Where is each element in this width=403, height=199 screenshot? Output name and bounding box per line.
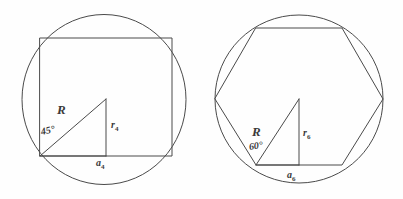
label-apothem-square: r4 — [111, 120, 118, 133]
radius-line-hexagon — [256, 99, 299, 165]
label-radius-square: R — [57, 103, 66, 116]
figure-hexagon-in-circle — [215, 15, 383, 183]
label-side-hexagon: a6 — [287, 170, 296, 183]
label-apothem-square-subscript: 4 — [115, 125, 119, 133]
geometry-figure-root: R 45° r4 a4 R 60° r6 a6 — [0, 0, 403, 199]
label-side-hexagon-subscript: 6 — [292, 175, 296, 183]
label-side-square: a4 — [96, 158, 105, 171]
label-radius-hexagon: R — [252, 125, 261, 138]
label-angle-hexagon: 60° — [248, 140, 263, 152]
label-apothem-hexagon-subscript: 6 — [307, 133, 311, 141]
label-apothem-hexagon: r6 — [303, 128, 310, 141]
geometry-canvas — [0, 0, 403, 199]
label-side-square-subscript: 4 — [101, 163, 105, 171]
